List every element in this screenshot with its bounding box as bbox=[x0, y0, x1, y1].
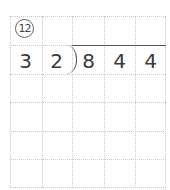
grid-line bbox=[10, 131, 166, 132]
dividend-digit-ones: 4 bbox=[135, 46, 166, 75]
grid-line bbox=[10, 102, 166, 103]
dividend-digit-hundreds: 8 bbox=[73, 46, 104, 75]
grid-line bbox=[10, 187, 166, 188]
dividend-digit-tens: 4 bbox=[104, 46, 135, 75]
grid-line bbox=[10, 16, 166, 17]
division-grid bbox=[10, 16, 166, 188]
grid-line bbox=[10, 159, 166, 160]
problem-number-badge: 12 bbox=[15, 19, 34, 38]
divisor-digit-tens: 3 bbox=[10, 46, 41, 75]
